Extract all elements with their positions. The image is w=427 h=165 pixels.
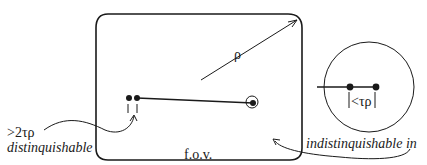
lt-tau-rho-label: <τρ [351,94,372,109]
diagram-canvas: ρ >2τρ distinquishable f.o.v. <τρ indist… [0,0,427,165]
fov-label: f.o.v. [184,147,212,162]
curved-arrow-left [44,116,134,132]
point-dot-1 [126,95,132,101]
rho-label: ρ [234,47,241,62]
arrowhead-icon [288,20,297,27]
gt-2tau-rho-label: >2τρ [7,125,35,140]
indistinguishable-label: indistinquishable in [306,136,417,151]
radius-arrow [201,20,297,80]
magnified-dot-1 [347,84,354,91]
distinguishable-label: distinquishable [7,140,93,155]
magnified-dot-2 [373,84,380,91]
target-dot [250,100,256,106]
connector-line [137,98,253,103]
